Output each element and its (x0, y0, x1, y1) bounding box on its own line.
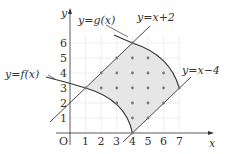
label-g: y=g(x) (77, 14, 115, 27)
y-tick-5: 5 (60, 52, 67, 65)
x-tick-2: 2 (98, 135, 105, 148)
x-tick-5: 5 (145, 135, 152, 148)
x-axis-label: x (209, 137, 216, 150)
y-tick-4: 4 (60, 67, 67, 80)
y-tick-2: 2 (60, 97, 67, 110)
label-line1: y=x+2 (136, 11, 175, 24)
x-tick-6: 6 (160, 135, 167, 148)
x-axis-arrow-icon (208, 131, 214, 135)
x-tick-4: 4 (129, 135, 136, 148)
y-axis-arrow-icon (68, 8, 72, 14)
y-axis-label: y (60, 7, 68, 20)
y-tick-3: 3 (60, 82, 67, 95)
origin-label: O (59, 135, 68, 148)
y-tick-1: 1 (60, 112, 67, 125)
x-tick-7: 7 (176, 135, 183, 148)
label-line2: y=x−4 (181, 64, 220, 77)
x-tick-3: 3 (113, 135, 120, 148)
y-tick-6: 6 (60, 37, 67, 50)
label-f: y=f(x) (4, 68, 39, 81)
coordinate-diagram: O 1 2 3 4 5 6 7 x 1 2 3 4 5 6 y y=g(x) y… (0, 0, 230, 154)
x-tick-1: 1 (82, 135, 89, 148)
